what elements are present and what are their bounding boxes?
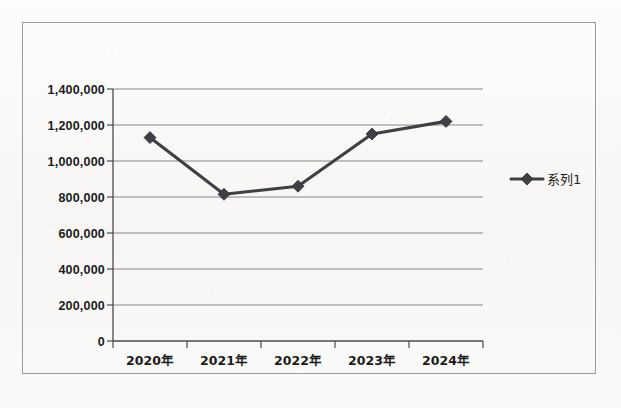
y-tick-label: 1,000,000 [48, 155, 105, 169]
x-tick-label: 2023年 [348, 353, 396, 368]
y-tick-marks [107, 89, 113, 341]
x-tick-label: 2020年 [126, 353, 174, 368]
y-tick-label: 0 [98, 335, 105, 349]
line-chart: 1,400,000 1,200,000 1,000,000 800,000 60… [23, 23, 597, 375]
legend-diamond-icon [521, 173, 533, 185]
y-tick-label: 200,000 [58, 299, 105, 313]
y-tick-label: 800,000 [58, 191, 105, 205]
series-1-group [144, 115, 452, 200]
y-tick-label: 1,400,000 [48, 83, 105, 97]
y-gridlines [113, 89, 483, 305]
y-tick-label: 1,200,000 [48, 119, 105, 133]
y-axis-tick-labels: 1,400,000 1,200,000 1,000,000 800,000 60… [48, 83, 105, 349]
legend-label: 系列1 [547, 172, 581, 187]
x-tick-marks [113, 341, 483, 348]
legend: 系列1 [511, 172, 581, 187]
x-tick-label: 2021年 [200, 353, 248, 368]
y-tick-label: 600,000 [58, 227, 105, 241]
data-point-marker [440, 115, 452, 127]
x-tick-label: 2022年 [274, 353, 322, 368]
x-tick-label: 2024年 [422, 353, 470, 368]
chart-axes [113, 89, 483, 341]
x-axis-tick-labels: 2020年 2021年 2022年 2023年 2024年 [126, 353, 470, 368]
y-tick-label: 400,000 [58, 263, 105, 277]
chart-outer-border: 1,400,000 1,200,000 1,000,000 800,000 60… [22, 22, 596, 374]
